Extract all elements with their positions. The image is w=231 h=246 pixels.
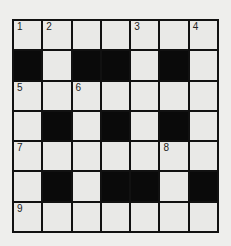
clue-number: 8 xyxy=(163,143,169,153)
crossword-cell[interactable]: 7 xyxy=(14,142,41,170)
crossword-cell[interactable]: 2 xyxy=(43,21,70,49)
crossword-cell[interactable] xyxy=(14,112,41,140)
crossword-cell[interactable]: 4 xyxy=(190,21,217,49)
crossword-grid: 123456789 xyxy=(12,19,219,233)
crossword-cell[interactable] xyxy=(190,142,217,170)
crossword-cell[interactable] xyxy=(73,142,100,170)
crossword-cell[interactable] xyxy=(190,82,217,110)
crossword-cell[interactable] xyxy=(160,82,187,110)
clue-number: 9 xyxy=(17,204,23,214)
crossword-cell[interactable] xyxy=(160,172,187,200)
crossword-cell[interactable] xyxy=(102,21,129,49)
crossword-cell[interactable] xyxy=(160,21,187,49)
crossword-cell[interactable] xyxy=(190,112,217,140)
crossword-cell[interactable] xyxy=(102,203,129,231)
crossword-cell[interactable] xyxy=(131,82,158,110)
crossword-cell[interactable]: 1 xyxy=(14,21,41,49)
crossword-cell[interactable]: 8 xyxy=(160,142,187,170)
crossword-cell[interactable] xyxy=(73,21,100,49)
crossword-cell[interactable]: 3 xyxy=(131,21,158,49)
crossword-cell[interactable] xyxy=(43,142,70,170)
crossword-cell[interactable] xyxy=(14,172,41,200)
clue-number: 5 xyxy=(17,83,23,93)
clue-number: 2 xyxy=(46,22,52,32)
clue-number: 7 xyxy=(17,143,23,153)
crossword-cell[interactable] xyxy=(43,203,70,231)
black-cell xyxy=(102,172,129,200)
black-cell xyxy=(160,51,187,79)
black-cell xyxy=(102,51,129,79)
crossword-cell[interactable]: 6 xyxy=(73,82,100,110)
crossword-cell[interactable] xyxy=(131,203,158,231)
crossword-cell[interactable]: 9 xyxy=(14,203,41,231)
crossword-cell[interactable] xyxy=(73,172,100,200)
clue-number: 6 xyxy=(76,83,82,93)
crossword-cell[interactable] xyxy=(131,51,158,79)
black-cell xyxy=(14,51,41,79)
clue-number: 1 xyxy=(17,22,23,32)
crossword-cell[interactable] xyxy=(73,203,100,231)
crossword-cell[interactable] xyxy=(160,203,187,231)
crossword-cell[interactable] xyxy=(190,203,217,231)
black-cell xyxy=(131,172,158,200)
black-cell xyxy=(160,112,187,140)
clue-number: 4 xyxy=(193,22,199,32)
black-cell xyxy=(102,112,129,140)
clue-number: 3 xyxy=(134,22,140,32)
crossword-cell[interactable] xyxy=(131,112,158,140)
crossword-cell[interactable] xyxy=(43,82,70,110)
crossword-cell[interactable] xyxy=(73,112,100,140)
black-cell xyxy=(43,172,70,200)
black-cell xyxy=(190,172,217,200)
crossword-cell[interactable]: 5 xyxy=(14,82,41,110)
crossword-cell[interactable] xyxy=(131,142,158,170)
crossword-cell[interactable] xyxy=(102,82,129,110)
black-cell xyxy=(43,112,70,140)
crossword-cell[interactable] xyxy=(102,142,129,170)
black-cell xyxy=(73,51,100,79)
crossword-cell[interactable] xyxy=(190,51,217,79)
crossword-cell[interactable] xyxy=(43,51,70,79)
